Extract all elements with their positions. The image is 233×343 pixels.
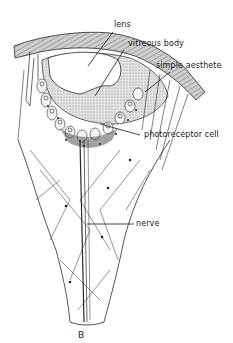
panel-label: B (78, 330, 84, 340)
nerve-bundle (80, 140, 90, 322)
body-outline (18, 140, 170, 325)
label-lens: lens (114, 20, 131, 29)
label-photoreceptor-cell: photoreceptor cell (144, 130, 219, 139)
diagram-drawing (0, 0, 233, 343)
label-simple-aesthete: simple aesthete (156, 61, 222, 70)
label-nerve: nerve (136, 219, 159, 228)
ocellus-diagram: lens vitreous body simple aesthete photo… (0, 0, 233, 343)
label-vitreous-body: vitreous body (128, 39, 184, 48)
